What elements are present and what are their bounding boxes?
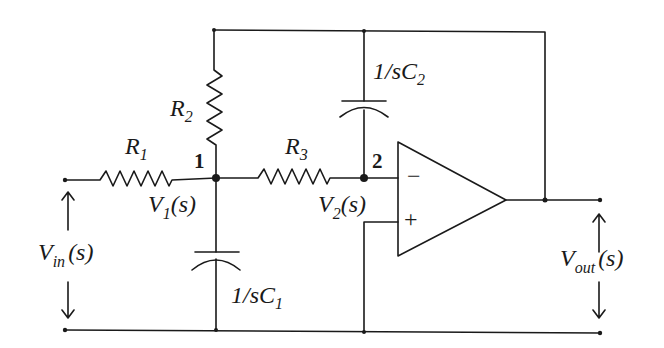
c2-label: 1/sC2 [373, 58, 425, 88]
output-arrow-down-icon [593, 282, 605, 318]
circuit-diagram: R1 R2 R3 1/sC2 1/sC1 1 2 V1(s) V2(s) Vin… [0, 0, 664, 348]
v1-label: V1(s) [148, 191, 196, 222]
opamp-inverting-sign: − [407, 163, 421, 189]
resistor-r1 [65, 171, 216, 186]
c1-label: 1/sC1 [231, 282, 283, 312]
vin-label: Vin(s) [38, 239, 93, 270]
ground-wire [65, 330, 600, 333]
node-2-label: 2 [372, 149, 383, 173]
v2-label: V2(s) [318, 191, 366, 222]
r3-label: R3 [284, 133, 308, 163]
junction-output [543, 198, 548, 203]
input-terminal-bottom [63, 328, 67, 332]
noninverting-ground-wire [364, 222, 398, 332]
top-feedback-wire [214, 30, 545, 200]
output-terminal-bottom [598, 331, 602, 335]
vout-label: Vout(s) [560, 245, 623, 276]
junction-ground-opamp [362, 330, 366, 334]
resistor-r2 [207, 30, 222, 178]
input-arrow-up-icon [62, 192, 74, 230]
input-terminal-top [63, 178, 67, 182]
output-terminal-top [598, 198, 602, 202]
input-arrow-down-icon [62, 282, 74, 318]
junction-top-c2 [362, 29, 366, 33]
junction-top-r2 [212, 28, 216, 32]
r2-label: R2 [169, 95, 193, 125]
opamp-noninverting-sign: + [404, 206, 418, 232]
opamp-triangle [398, 142, 506, 256]
resistor-r3 [216, 169, 398, 184]
junction-ground-c1 [214, 328, 218, 332]
node-1-label: 1 [194, 149, 205, 173]
junction-node-1 [212, 174, 220, 182]
r1-label: R1 [124, 133, 148, 163]
junction-node-2 [360, 174, 368, 182]
